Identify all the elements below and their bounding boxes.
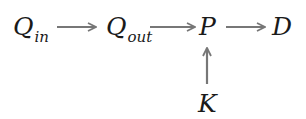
node-k: K xyxy=(198,91,217,116)
k-symbol: K xyxy=(198,89,217,118)
q-out-subscript: out xyxy=(128,28,153,46)
q-in-symbol: Q xyxy=(13,12,34,41)
node-q-out: Qout xyxy=(106,14,152,39)
node-q-in: Qin xyxy=(13,14,49,39)
d-symbol: D xyxy=(272,12,292,41)
q-in-subscript: in xyxy=(35,28,49,46)
p-symbol: P xyxy=(199,12,216,41)
node-p: P xyxy=(199,14,216,39)
node-d: D xyxy=(272,14,292,39)
q-out-symbol: Q xyxy=(106,12,127,41)
